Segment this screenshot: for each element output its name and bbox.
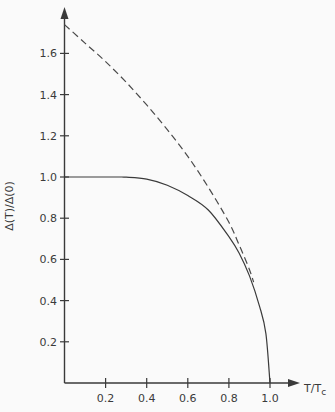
axes (61, 7, 301, 387)
gap-vs-temperature-chart: 0.20.40.60.81.0 0.20.40.60.81.01.21.41.6… (0, 0, 335, 412)
x-tick-label: 1.0 (261, 392, 279, 405)
x-ticks: 0.20.40.60.81.0 (97, 378, 279, 405)
y-tick-label: 0.8 (40, 212, 58, 225)
x-tick-label: 0.2 (97, 392, 115, 405)
x-axis-arrow-icon (288, 379, 300, 387)
y-tick-label: 1.0 (40, 171, 58, 184)
x-axis-title-main: T/T (303, 382, 321, 395)
gl-approximation-curve (65, 25, 254, 283)
y-axis-arrow-icon (61, 7, 69, 19)
y-tick-label: 1.6 (40, 47, 58, 60)
x-tick-label: 0.6 (179, 392, 197, 405)
x-tick-label: 0.8 (220, 392, 238, 405)
bcs-gap-curve (65, 177, 271, 383)
x-tick-label: 0.4 (138, 392, 156, 405)
y-tick-label: 0.6 (40, 253, 58, 266)
y-axis-title: Δ(T)/Δ(0) (3, 181, 16, 231)
y-tick-label: 0.2 (40, 336, 58, 349)
x-axis-title-subscript: c (321, 387, 326, 397)
y-tick-label: 1.2 (40, 130, 58, 143)
y-tick-label: 0.4 (40, 295, 58, 308)
y-tick-label: 1.4 (40, 89, 58, 102)
x-axis-title: T/Tc (303, 382, 326, 397)
